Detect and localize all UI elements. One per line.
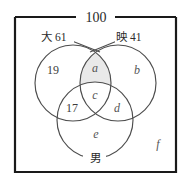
set-label-right: 映 41 xyxy=(116,31,142,43)
set-label-bottom: 男 xyxy=(90,152,101,164)
region-label-right-bottom-only: d xyxy=(114,101,121,115)
venn-diagram-figure: 100 大 61 映 41 男 19 a b c d 17 e f xyxy=(0,0,190,182)
region-label-left-only: 19 xyxy=(47,63,59,77)
region-label-all-three: c xyxy=(92,88,98,102)
set-label-left: 大 61 xyxy=(41,30,67,43)
leader-line-right-set xyxy=(90,41,117,52)
universe-count-label: 100 xyxy=(86,10,107,25)
region-label-bottom-only: e xyxy=(93,127,99,141)
region-label-left-bottom-only: 17 xyxy=(66,101,78,115)
region-label-outside-all: f xyxy=(156,137,161,151)
region-label-left-right-only: a xyxy=(92,61,98,75)
leader-line-left-set xyxy=(72,41,100,52)
region-label-right-only: b xyxy=(134,63,140,77)
venn-diagram-canvas: 100 大 61 映 41 男 19 a b c d 17 e f xyxy=(0,0,190,182)
